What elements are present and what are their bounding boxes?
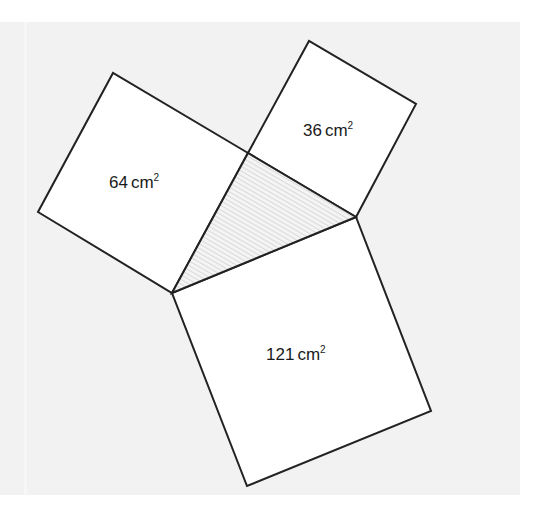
- area-value: 64: [109, 173, 128, 192]
- square-64-label: 64cm2: [109, 172, 160, 192]
- area-value: 36: [303, 121, 322, 140]
- square-36-label: 36cm2: [303, 120, 354, 140]
- background-stripe: [24, 22, 27, 495]
- area-exponent: 2: [348, 120, 354, 131]
- area-unit: cm: [131, 173, 154, 192]
- area-exponent: 2: [320, 344, 326, 355]
- pythagoras-diagram: 64cm2 36cm2 121cm2: [0, 0, 542, 508]
- area-value: 121: [266, 345, 294, 364]
- area-unit: cm: [325, 121, 348, 140]
- area-unit: cm: [297, 345, 320, 364]
- area-exponent: 2: [154, 172, 160, 183]
